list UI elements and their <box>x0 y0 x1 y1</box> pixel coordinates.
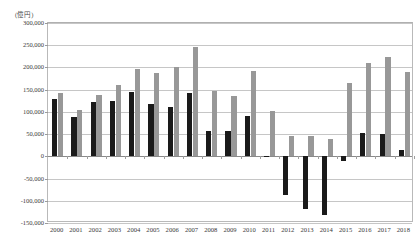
x-axis-tick-label-2004: 2004 <box>127 226 140 234</box>
bar-group-2018 <box>399 23 410 221</box>
bar-group-2014 <box>322 23 333 221</box>
bar-series-gray-2009 <box>231 96 236 156</box>
x-axis-tick-label-2005: 2005 <box>146 226 159 234</box>
x-axis-tick-mark <box>241 156 242 159</box>
bar-series-black-2016 <box>360 133 365 156</box>
y-axis-tick-label: 150,000 <box>23 87 44 94</box>
bar-group-2002 <box>91 23 102 221</box>
bar-series-black-2004 <box>129 92 134 156</box>
x-axis-tick-label-2015: 2015 <box>339 226 352 234</box>
x-axis-tick-label-2003: 2003 <box>108 226 121 234</box>
bar-group-2007 <box>187 23 198 221</box>
bar-group-2001 <box>71 23 82 221</box>
bar-series-gray-2015 <box>347 83 352 156</box>
x-axis-tick-label-2011: 2011 <box>262 226 275 234</box>
y-axis-tick-label: 0 <box>41 153 44 160</box>
bar-group-2003 <box>110 23 121 221</box>
bar-group-2006 <box>168 23 179 221</box>
bar-series-black-2014 <box>322 156 327 215</box>
bar-series-gray-2005 <box>154 73 159 156</box>
x-axis-tick-mark <box>279 156 280 159</box>
x-axis-tick-mark <box>87 156 88 159</box>
bar-series-black-2002 <box>91 102 96 156</box>
plot-area: 300,000250,000200,000150,000100,00050,00… <box>47 22 413 222</box>
bar-series-gray-2001 <box>77 110 82 156</box>
x-axis-tick-mark <box>337 156 338 159</box>
bar-group-2011 <box>264 23 275 221</box>
bar-series-black-2017 <box>380 134 385 156</box>
bar-series-gray-2013 <box>308 136 313 156</box>
y-axis-tick-label: -100,000 <box>21 198 44 205</box>
x-axis-tick-mark <box>183 156 184 159</box>
bar-series-black-2013 <box>303 156 308 208</box>
x-axis-tick-label-2017: 2017 <box>378 226 391 234</box>
bar-series-gray-2014 <box>328 139 333 156</box>
y-axis-tick-label: 250,000 <box>23 42 44 49</box>
bar-group-2012 <box>283 23 294 221</box>
x-axis-tick-label-2009: 2009 <box>223 226 236 234</box>
bar-group-2004 <box>129 23 140 221</box>
x-axis-tick-label-2013: 2013 <box>300 226 313 234</box>
bar-series-gray-2003 <box>116 85 121 157</box>
x-axis-tick-label-2007: 2007 <box>185 226 198 234</box>
y-axis-tick-label: 50,000 <box>26 131 44 138</box>
x-axis-tick-mark <box>202 156 203 159</box>
bar-series-gray-2006 <box>174 67 179 157</box>
x-axis-tick-mark <box>164 156 165 159</box>
bar-series-gray-2004 <box>135 69 140 157</box>
x-axis-tick-mark <box>221 156 222 159</box>
x-axis-tick-label-2002: 2002 <box>89 226 102 234</box>
x-axis-tick-mark <box>375 156 376 159</box>
x-axis-tick-label-2006: 2006 <box>166 226 179 234</box>
bar-series-black-2012 <box>283 156 288 195</box>
x-axis-tick-label-2010: 2010 <box>243 226 256 234</box>
bar-group-2016 <box>360 23 371 221</box>
x-axis-tick-mark <box>260 156 261 159</box>
x-axis-tick-label-2012: 2012 <box>281 226 294 234</box>
x-axis-tick-label-2016: 2016 <box>358 226 371 234</box>
x-axis-tick-mark <box>106 156 107 159</box>
y-axis-tick-mark <box>45 223 48 224</box>
bar-series-gray-2018 <box>405 72 410 156</box>
bar-chart: (億円) 300,000250,000200,000150,000100,000… <box>0 0 418 250</box>
x-axis-tick-mark <box>298 156 299 159</box>
bar-group-2005 <box>148 23 159 221</box>
bar-series-gray-2011 <box>270 111 275 156</box>
bar-group-2000 <box>52 23 63 221</box>
x-axis-tick-mark <box>318 156 319 159</box>
bar-series-gray-2017 <box>385 57 390 157</box>
x-axis-tick-mark <box>125 156 126 159</box>
bar-group-2008 <box>206 23 217 221</box>
x-axis-tick-label-2014: 2014 <box>320 226 333 234</box>
bar-group-2013 <box>303 23 314 221</box>
x-axis-tick-label-2008: 2008 <box>204 226 217 234</box>
x-axis-tick-label-2018: 2018 <box>397 226 410 234</box>
y-axis-tick-label: 200,000 <box>23 64 44 71</box>
y-axis-tick-label: 300,000 <box>23 20 44 27</box>
bar-series-black-2011 <box>264 156 269 157</box>
y-axis-tick-label: 100,000 <box>23 109 44 116</box>
y-axis-tick-label: -50,000 <box>24 176 44 183</box>
bar-series-black-2007 <box>187 93 192 157</box>
bar-series-gray-2012 <box>289 136 294 156</box>
bar-series-black-2005 <box>148 104 153 156</box>
bar-series-black-2006 <box>168 107 173 156</box>
x-axis-labels: 2000200120022003200420052006200720082009… <box>47 226 413 238</box>
bar-group-2017 <box>380 23 391 221</box>
bar-series-gray-2016 <box>366 63 371 157</box>
x-axis-tick-label-2001: 2001 <box>69 226 82 234</box>
bar-series-black-2003 <box>110 101 115 157</box>
bar-series-black-2015 <box>341 156 346 161</box>
gridline <box>48 223 412 224</box>
bar-series-black-2018 <box>399 150 404 156</box>
bar-series-gray-2008 <box>212 91 217 157</box>
x-axis-tick-label-2000: 2000 <box>50 226 63 234</box>
x-axis-tick-mark <box>356 156 357 159</box>
bar-series-black-2000 <box>52 99 57 156</box>
bar-group-2009 <box>225 23 236 221</box>
bar-series-container <box>48 23 412 221</box>
x-axis-tick-mark <box>395 156 396 159</box>
y-axis-unit-label: (億円) <box>15 9 33 19</box>
x-axis-tick-mark <box>144 156 145 159</box>
bar-series-gray-2007 <box>193 47 198 157</box>
